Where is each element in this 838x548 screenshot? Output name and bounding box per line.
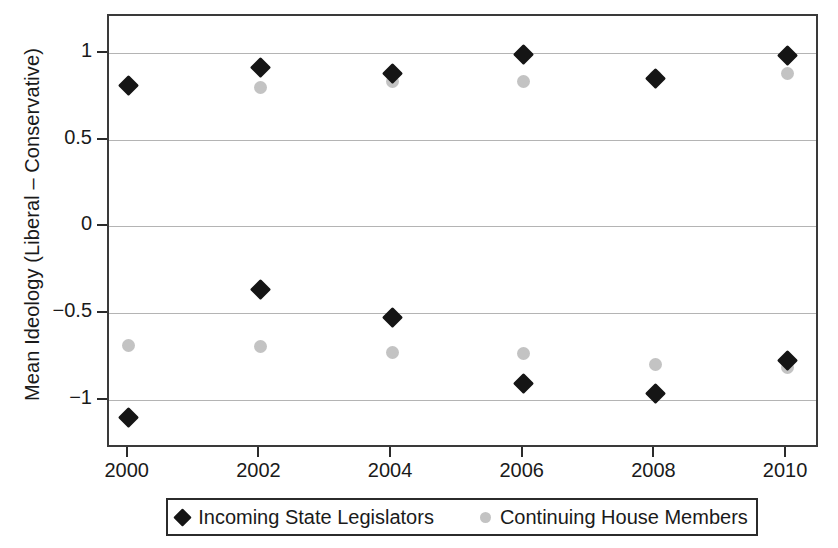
data-point <box>517 347 530 360</box>
gridline--0.5 <box>109 313 816 314</box>
data-point <box>250 279 271 300</box>
x-tick-label-2006: 2006 <box>477 459 567 482</box>
data-point <box>118 407 139 428</box>
circle-marker-icon <box>480 512 491 523</box>
data-point <box>781 67 794 80</box>
data-point <box>649 358 662 371</box>
gridline-0.5 <box>109 140 816 141</box>
x-tick-mark <box>389 447 391 457</box>
diamond-marker-icon <box>174 508 192 526</box>
data-point <box>118 75 139 96</box>
x-tick-mark <box>126 447 128 457</box>
plot-area <box>107 14 818 447</box>
data-point <box>250 57 271 78</box>
data-point <box>381 63 402 84</box>
data-point <box>513 43 534 64</box>
y-tick-label-1: 1 <box>22 39 92 62</box>
data-point <box>122 339 135 352</box>
x-tick-mark <box>257 447 259 457</box>
data-point <box>386 346 399 359</box>
x-tick-label-2010: 2010 <box>740 459 830 482</box>
y-tick-mark <box>97 138 107 140</box>
data-point <box>381 307 402 328</box>
x-tick-label-2004: 2004 <box>345 459 435 482</box>
legend-entry-2[interactable]: Continuing House Members <box>480 506 748 529</box>
data-point <box>254 81 267 94</box>
x-tick-mark <box>652 447 654 457</box>
data-point <box>776 45 797 66</box>
y-tick-mark <box>97 51 107 53</box>
y-tick-label--1: −1 <box>22 386 92 409</box>
y-tick-mark <box>97 311 107 313</box>
x-tick-label-2002: 2002 <box>213 459 303 482</box>
data-point <box>776 350 797 371</box>
data-point <box>513 373 534 394</box>
gridline--1 <box>109 400 816 401</box>
x-tick-mark <box>784 447 786 457</box>
data-point <box>517 75 530 88</box>
data-point <box>645 68 666 89</box>
legend-entry-1[interactable]: Incoming State Legislators <box>176 506 434 529</box>
x-tick-mark <box>521 447 523 457</box>
y-tick-mark <box>97 224 107 226</box>
y-tick-mark <box>97 398 107 400</box>
y-tick-label-0: 0 <box>22 212 92 235</box>
gridline-0 <box>109 226 816 227</box>
chart-figure: Mean Ideology (Liberal – Conservative) 1… <box>0 0 838 548</box>
data-point <box>645 383 666 404</box>
data-point <box>254 340 267 353</box>
x-tick-label-2000: 2000 <box>82 459 172 482</box>
legend-label: Incoming State Legislators <box>198 506 434 529</box>
gridline-1 <box>109 53 816 54</box>
legend-label: Continuing House Members <box>500 506 748 529</box>
y-tick-label-0.5: 0.5 <box>22 126 92 149</box>
x-tick-label-2008: 2008 <box>608 459 698 482</box>
chart-legend: Incoming State LegislatorsContinuing Hou… <box>166 498 758 536</box>
y-tick-label--0.5: −0.5 <box>22 299 92 322</box>
